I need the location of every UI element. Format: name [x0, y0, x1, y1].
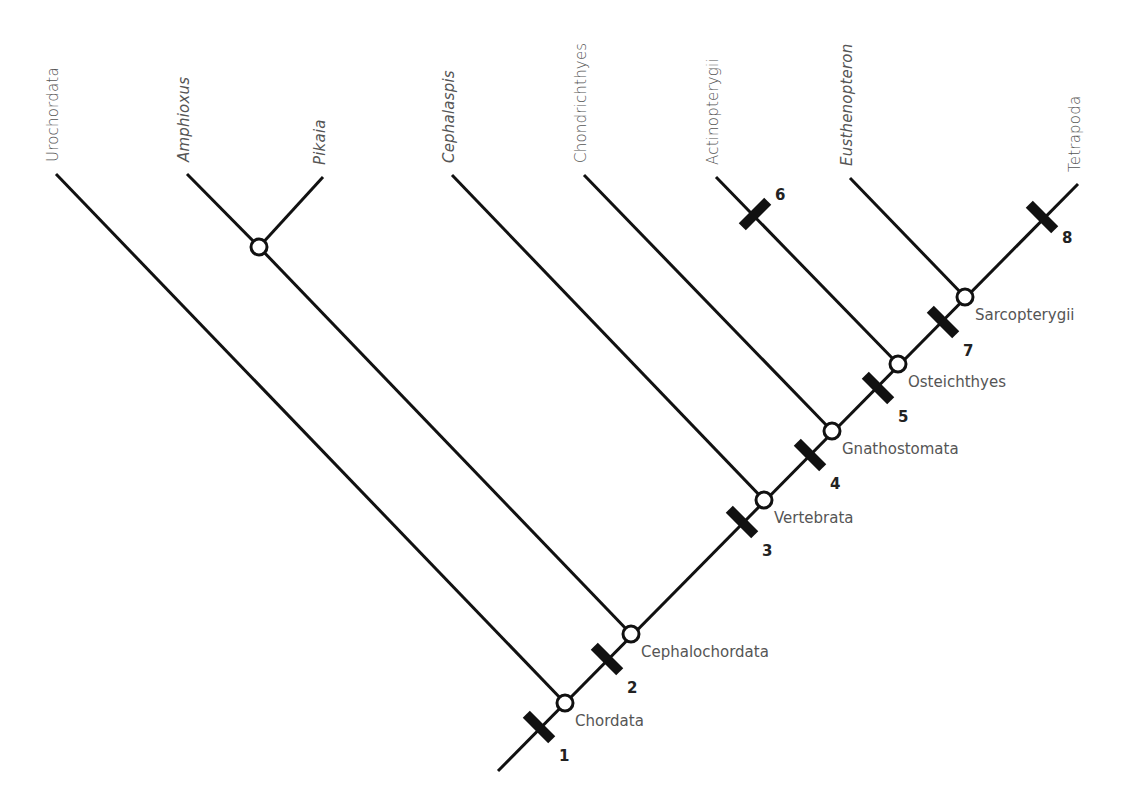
branch-urochordata [56, 174, 565, 703]
character-number: 6 [775, 186, 785, 204]
character-bar-1 [526, 714, 551, 739]
branch-amphioxus [187, 174, 259, 247]
branch-eusthenopteron [850, 178, 965, 297]
character-number: 2 [627, 679, 637, 697]
clade-label: Cephalochordata [641, 643, 769, 661]
node-circle [251, 239, 267, 255]
taxon-label: Tetrapoda [1066, 96, 1084, 172]
node-circle [623, 626, 639, 642]
character-number: 4 [830, 475, 840, 493]
clade-label: Sarcopterygii [975, 306, 1075, 324]
taxon-label: Amphioxus [175, 77, 193, 162]
clade-label: Vertebrata [774, 509, 854, 527]
cladogram [0, 0, 1129, 811]
character-bar-8 [1029, 204, 1054, 229]
node-circle [824, 423, 840, 439]
clade-label: Osteichthyes [908, 373, 1006, 391]
node-circle [756, 492, 772, 508]
node-circle [557, 695, 573, 711]
taxon-label: Eusthenopteron [838, 44, 856, 166]
character-number: 3 [762, 542, 772, 560]
taxon-label: Pikaia [311, 119, 329, 165]
branch-actinopterygii [716, 177, 898, 364]
character-number: 8 [1062, 229, 1072, 247]
character-number: 1 [559, 747, 569, 765]
branch-cephalaspis [452, 175, 764, 500]
node-circle [890, 356, 906, 372]
clade-label: Chordata [575, 712, 644, 730]
character-number: 5 [898, 408, 908, 426]
node-circle [957, 289, 973, 305]
clade-label: Gnathostomata [842, 440, 959, 458]
character-number: 7 [963, 342, 973, 360]
taxon-label: Cephalaspis [440, 70, 458, 163]
taxon-label: Chondrichthyes [572, 43, 590, 163]
backbone-branch [498, 184, 1078, 771]
branch-chondrichthyes [584, 175, 832, 431]
character-bar-6 [742, 201, 767, 226]
branch-pikaia [259, 177, 323, 247]
taxon-label: Actinopterygii [704, 58, 722, 165]
taxon-label: Urochordata [44, 67, 62, 162]
